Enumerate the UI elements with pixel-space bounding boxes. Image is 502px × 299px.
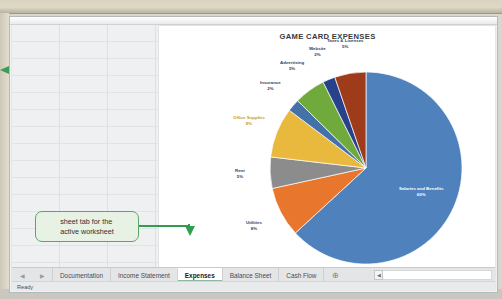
- pie-label-name: Utilities: [246, 220, 262, 225]
- pie-label-name: Advertising: [280, 60, 304, 65]
- formula-bar-strip: [10, 17, 497, 25]
- pie-slice-group: [270, 72, 462, 264]
- sheet-tab-label: Documentation: [60, 272, 103, 279]
- pie-label-insurance: Insurance2%: [260, 80, 281, 92]
- sheet-nav-buttons[interactable]: ◀ ▶: [12, 268, 52, 282]
- pie-label-salaries-and-benefits: Salaries and Benefits60%: [399, 186, 443, 198]
- pie-label-percent: 2%: [260, 86, 281, 92]
- sheet-tab-bar[interactable]: ◀ ▶ DocumentationIncome StatementExpense…: [12, 267, 495, 282]
- pie-label-percent: 8%: [233, 121, 265, 127]
- status-bar: Ready: [12, 281, 495, 291]
- pie-label-utilities: Utilities8%: [246, 220, 262, 232]
- annotation-callout-text: sheet tab for the active worksheet: [60, 217, 114, 236]
- pie-label-office-supplies: Office Supplies8%: [233, 115, 265, 127]
- pie-label-name: Salaries and Benefits: [399, 186, 443, 191]
- pie-label-percent: 60%: [399, 192, 443, 198]
- sheet-tab-label: Cash Flow: [286, 272, 316, 279]
- pie-label-percent: 5%: [235, 174, 245, 180]
- sheet-tab-documentation[interactable]: Documentation: [52, 268, 111, 282]
- pie-label-advertising: Advertising5%: [280, 60, 304, 72]
- sheet-tab-balance-sheet[interactable]: Balance Sheet: [222, 268, 280, 282]
- pie-label-name: Taxes & Licenses: [327, 38, 364, 43]
- excel-window: GAME CARD EXPENSES Salaries and Benefits…: [9, 16, 498, 293]
- sheet-nav-next-icon[interactable]: ▶: [40, 272, 45, 279]
- pie-label-percent: 2%: [309, 52, 326, 58]
- sheet-tab-label: Expenses: [185, 272, 215, 279]
- pie-label-name: Office Supplies: [233, 115, 265, 120]
- callout-line-2: active worksheet: [60, 227, 114, 236]
- tab-bar-spacer: [347, 268, 374, 282]
- annotation-callout: sheet tab for the active worksheet: [35, 211, 139, 242]
- pie-label-percent: 8%: [246, 226, 262, 232]
- pie-label-taxes-licenses: Taxes & Licenses5%: [327, 38, 364, 50]
- scrollbar-left-arrow-icon[interactable]: ◀: [374, 270, 383, 280]
- pie-chart-svg: [159, 26, 495, 267]
- pie-chart-plot-area: Salaries and Benefits60%Utilities8%Rent5…: [159, 26, 495, 267]
- add-sheet-button[interactable]: ⊕: [323, 268, 347, 282]
- horizontal-scrollbar[interactable]: ◀: [374, 268, 495, 282]
- scrollbar-track[interactable]: [383, 270, 492, 280]
- sheet-tab-cash-flow[interactable]: Cash Flow: [278, 268, 324, 282]
- callout-line-1: sheet tab for the: [60, 217, 112, 226]
- pie-label-name: Rent: [235, 168, 245, 173]
- pie-label-website: Website2%: [309, 46, 326, 58]
- sheet-tab-label: Income Statement: [118, 272, 170, 279]
- pie-label-name: Insurance: [260, 80, 281, 85]
- pie-label-rent: Rent5%: [235, 168, 245, 180]
- pie-label-name: Website: [309, 46, 326, 51]
- chart-object[interactable]: GAME CARD EXPENSES Salaries and Benefits…: [158, 25, 495, 267]
- pie-label-percent: 5%: [327, 44, 364, 50]
- sheet-nav-prev-icon[interactable]: ◀: [20, 272, 25, 279]
- annotation-leader-line: [139, 225, 188, 227]
- sheet-tab-list: DocumentationIncome StatementExpensesBal…: [52, 268, 323, 282]
- page-left-edge: [0, 13, 9, 299]
- annotation-arrow-icon: [185, 226, 195, 236]
- status-text: Ready: [12, 284, 33, 290]
- page-top-edge: [0, 0, 502, 14]
- sheet-tab-expenses[interactable]: Expenses: [177, 268, 223, 282]
- pie-label-percent: 5%: [280, 66, 304, 72]
- sheet-tab-income-statement[interactable]: Income Statement: [110, 268, 178, 282]
- sheet-tab-label: Balance Sheet: [230, 272, 272, 279]
